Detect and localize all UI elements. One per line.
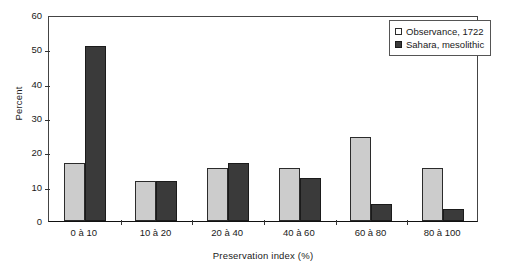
bar-group: [192, 17, 264, 221]
y-axis-tick-label: 30: [16, 114, 42, 124]
x-axis-tick-label: 40 à 60: [283, 228, 315, 238]
legend-swatch-icon: [395, 41, 402, 48]
bar: [279, 168, 300, 221]
bar: [207, 168, 228, 221]
bar: [371, 204, 392, 221]
legend-swatch-icon: [395, 28, 402, 35]
legend-item: Sahara, mesolithic: [395, 38, 484, 51]
x-axis-tick-labels: 0 à 1010 à 2020 à 4040 à 6060 à 8080 à 1…: [48, 228, 478, 242]
legend-item: Observance, 1722: [395, 25, 484, 38]
chart-legend: Observance, 1722Sahara, mesolithic: [389, 20, 491, 56]
bar-chart: Percent 0102030405060 0 à 1010 à 2020 à …: [0, 0, 529, 272]
bar: [64, 163, 85, 221]
bar: [135, 181, 156, 222]
x-axis-tick-label: 80 à 100: [424, 228, 461, 238]
bar: [350, 137, 371, 221]
x-axis-title: Preservation index (%): [48, 250, 478, 261]
x-axis-tick-label: 0 à 10: [71, 228, 97, 238]
bar: [228, 163, 249, 221]
bar: [85, 46, 106, 221]
legend-label: Sahara, mesolithic: [406, 40, 484, 50]
y-axis-tick-label: 60: [16, 11, 42, 21]
x-axis-tick-label: 20 à 40: [211, 228, 243, 238]
bar-group: [121, 17, 193, 221]
y-axis-tick-labels: 0102030405060: [16, 0, 42, 272]
bar: [443, 209, 464, 221]
bar: [156, 181, 177, 221]
x-axis-tick-label: 10 à 20: [140, 228, 172, 238]
y-axis-tick-label: 50: [16, 46, 42, 56]
legend-label: Observance, 1722: [406, 27, 484, 37]
y-axis-tick-label: 40: [16, 80, 42, 90]
y-axis-tick-label: 0: [16, 217, 42, 227]
bar: [300, 178, 321, 221]
y-axis-tick-label: 20: [16, 149, 42, 159]
bar: [422, 168, 443, 221]
bar-group: [264, 17, 336, 221]
y-axis-tick-label: 10: [16, 183, 42, 193]
bar-group: [49, 17, 121, 221]
x-axis-tick-label: 60 à 80: [355, 228, 387, 238]
